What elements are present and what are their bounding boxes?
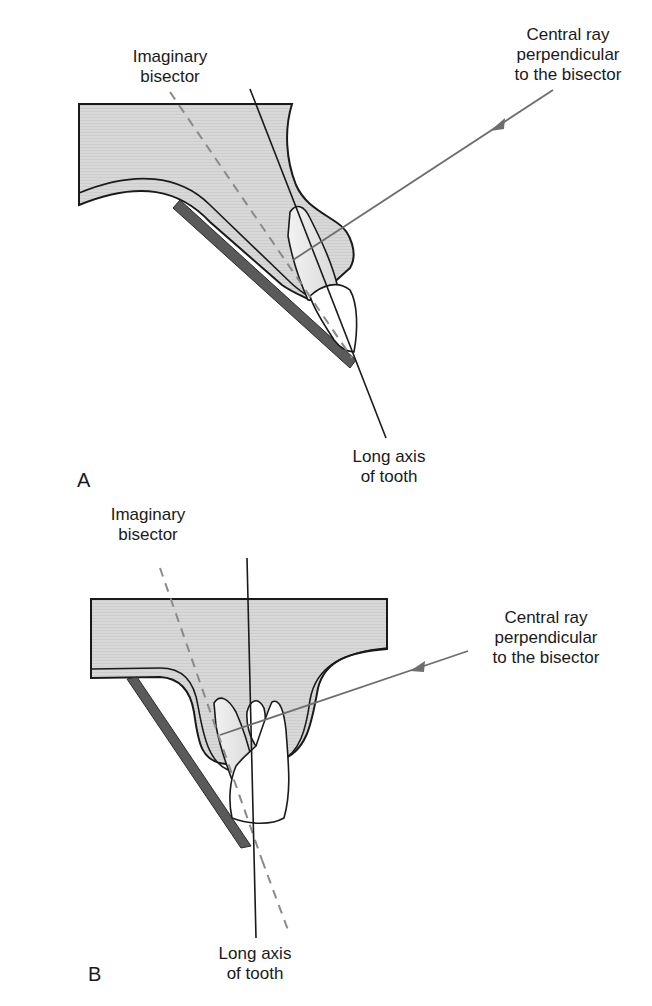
label-long-axis-b: Long axis of tooth (200, 944, 310, 984)
label-line: bisector (88, 525, 208, 545)
panel-a-drawing (79, 89, 553, 438)
label-imaginary-bisector-b: Imaginary bisector (88, 505, 208, 545)
label-line: Central ray (488, 25, 648, 45)
panel-letter-a: A (77, 469, 90, 492)
panel-letter-b: B (88, 963, 101, 986)
label-line: Long axis (334, 447, 444, 467)
label-line: perpendicular (488, 45, 648, 65)
label-line: to the bisector (488, 65, 648, 85)
label-line: to the bisector (466, 648, 626, 668)
label-central-ray-b: Central ray perpendicular to the bisecto… (466, 608, 626, 668)
label-line: bisector (110, 67, 230, 87)
label-line: perpendicular (466, 628, 626, 648)
label-line: Long axis (200, 944, 310, 964)
panel-b-drawing (91, 558, 468, 938)
label-imaginary-bisector-a: Imaginary bisector (110, 47, 230, 87)
bisector-line-b-lower (262, 860, 288, 930)
central-ray-a (293, 90, 553, 260)
label-central-ray-a: Central ray perpendicular to the bisecto… (488, 25, 648, 85)
label-line: Imaginary (110, 47, 230, 67)
arrowhead-icon-b (410, 661, 425, 672)
label-line: Central ray (466, 608, 626, 628)
label-line: Imaginary (88, 505, 208, 525)
label-long-axis-a: Long axis of tooth (334, 447, 444, 487)
label-line: of tooth (334, 467, 444, 487)
label-line: of tooth (200, 964, 310, 984)
bisecting-angle-diagram (0, 0, 652, 1006)
arrowhead-icon-a (490, 118, 505, 131)
